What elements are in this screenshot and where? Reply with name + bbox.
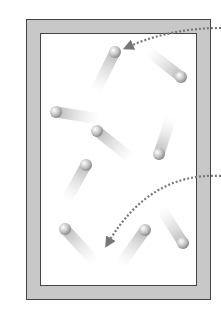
arrow-to-top-particle (128, 28, 221, 47)
particle (153, 117, 171, 160)
particle (161, 208, 189, 249)
particles-layer (0, 0, 221, 329)
particle (148, 51, 187, 83)
motion-trail (95, 52, 115, 92)
particle-ball (50, 106, 62, 118)
motion-trail (56, 112, 100, 119)
particle-ball (175, 71, 187, 83)
particle-ball (80, 159, 92, 171)
motion-trail (66, 165, 86, 201)
particle-ball (91, 125, 103, 137)
motion-trail (120, 230, 145, 265)
particle (50, 106, 100, 119)
motion-trail (65, 229, 95, 262)
motion-trail (161, 208, 183, 243)
particle (66, 159, 92, 201)
particle (91, 125, 132, 159)
particle-ball (153, 148, 165, 160)
particle (95, 46, 121, 92)
particle (59, 223, 95, 262)
motion-trail (97, 131, 132, 159)
motion-trail (148, 51, 181, 77)
particle-ball (177, 237, 189, 249)
particle-ball (139, 224, 151, 236)
particle-ball (109, 46, 121, 58)
particle (120, 224, 151, 265)
particle-ball (59, 223, 71, 235)
